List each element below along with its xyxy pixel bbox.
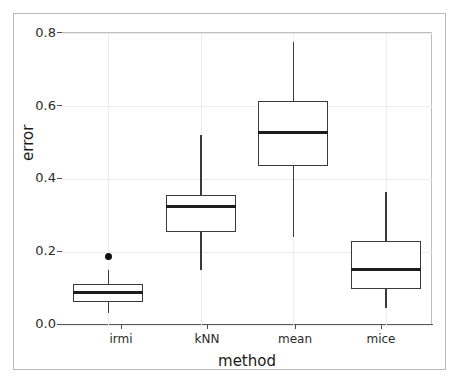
xtick-mark-irmi	[121, 324, 122, 329]
whisker-upper-irmi	[108, 270, 110, 284]
plot-panel	[62, 32, 432, 324]
whisker-upper-mean	[293, 42, 295, 101]
whisker-lower-irmi	[108, 302, 110, 313]
outlier-irmi-0	[105, 253, 112, 260]
xtick-mark-mice	[381, 324, 382, 329]
xtick-mark-knn	[207, 324, 208, 329]
ytick-label-3: 0.6	[12, 99, 56, 112]
median-irmi	[73, 291, 143, 294]
ytick-label-0: 0.0	[12, 317, 56, 330]
whisker-lower-mice	[385, 289, 387, 308]
whisker-lower-mean	[293, 166, 295, 237]
gridline-horizontal-3	[62, 106, 432, 107]
box-mice	[351, 241, 421, 289]
gridline-horizontal-0	[62, 325, 432, 326]
xtick-label-knn: kNN	[167, 333, 247, 346]
median-mice	[351, 268, 421, 271]
box-kNN	[166, 195, 236, 232]
gridline-horizontal-2	[62, 179, 432, 180]
xtick-label-mean: mean	[255, 333, 335, 346]
median-mean	[258, 131, 328, 134]
x-axis-title: method	[62, 352, 432, 370]
boxplot-figure: 0.0 0.2 0.4 0.6 0.8 irmi kNN mean mice m…	[0, 0, 458, 386]
median-kNN	[166, 205, 236, 208]
ytick-label-4: 0.8	[12, 26, 56, 39]
whisker-upper-mice	[385, 192, 387, 241]
xtick-label-irmi: irmi	[81, 333, 161, 346]
whisker-lower-kNN	[200, 232, 202, 270]
y-axis-title: error	[19, 147, 37, 161]
whisker-upper-kNN	[200, 135, 202, 195]
ytick-label-2: 0.4	[12, 171, 56, 184]
xtick-label-mice: mice	[341, 333, 421, 346]
xtick-mark-mean	[295, 324, 296, 329]
ytick-label-1: 0.2	[12, 244, 56, 257]
gridline-horizontal-4	[62, 33, 432, 34]
